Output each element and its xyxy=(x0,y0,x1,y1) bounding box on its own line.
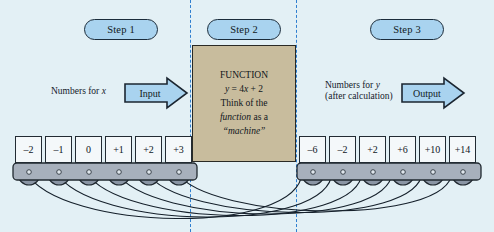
function-word-italic: function xyxy=(220,112,251,122)
output-caption: Numbers for y (after calculation) xyxy=(325,80,393,102)
output-tile: +6 xyxy=(389,136,416,163)
output-caption-line1: Numbers for y xyxy=(325,80,393,91)
output-tile: +14 xyxy=(449,136,476,163)
output-tile-value: +2 xyxy=(367,144,378,155)
function-note-line1: Think of the xyxy=(221,97,268,110)
output-conveyor-belt xyxy=(294,158,484,192)
output-caption-line2: (after calculation) xyxy=(325,91,393,102)
function-box: FUNCTION y = 4x + 2 Think of the functio… xyxy=(192,45,296,162)
step-3-label: Step 3 xyxy=(393,24,421,35)
input-tile: +3 xyxy=(165,136,192,163)
input-tile-value: 0 xyxy=(86,144,91,155)
input-tile-value: +1 xyxy=(113,144,124,155)
step-2-badge: Step 2 xyxy=(207,19,281,40)
function-note-line2: function as a xyxy=(220,111,268,124)
output-tile-value: –6 xyxy=(308,144,318,155)
input-tile: –2 xyxy=(15,136,42,163)
step-2-label: Step 2 xyxy=(230,24,258,35)
input-tile-value: –1 xyxy=(54,144,64,155)
output-tile-value: +10 xyxy=(425,144,441,155)
step-1-badge: Step 1 xyxy=(84,19,158,40)
input-caption-text: Numbers for x xyxy=(51,86,106,96)
function-title: FUNCTION xyxy=(220,69,268,82)
output-tile: +10 xyxy=(419,136,446,163)
output-tile-value: +6 xyxy=(397,144,408,155)
input-tile: 0 xyxy=(75,136,102,163)
output-arrow: Output xyxy=(400,76,466,110)
function-machine-word: “machine” xyxy=(223,125,266,138)
output-tile: +2 xyxy=(359,136,386,163)
output-tile: –6 xyxy=(299,136,326,163)
input-conveyor-belt xyxy=(10,158,200,192)
function-machine-diagram: Step 1 Step 2 Step 3 Numbers for x Input… xyxy=(0,0,494,232)
step2-left-divider xyxy=(190,0,191,232)
input-tile-value: –2 xyxy=(24,144,34,155)
step-1-label: Step 1 xyxy=(107,24,135,35)
function-equation: y = 4x + 2 xyxy=(225,83,263,96)
step2-right-divider xyxy=(296,0,297,232)
input-caption: Numbers for x xyxy=(51,86,106,97)
input-tile-value: +2 xyxy=(143,144,154,155)
input-tile-value: +3 xyxy=(173,144,184,155)
input-tile: +2 xyxy=(135,136,162,163)
output-tile: –2 xyxy=(329,136,356,163)
input-arrow: Input xyxy=(123,76,189,110)
output-tile-value: –2 xyxy=(338,144,348,155)
output-tile-value: +14 xyxy=(455,144,471,155)
function-note-rest: as a xyxy=(251,112,268,122)
input-tile: –1 xyxy=(45,136,72,163)
step-3-badge: Step 3 xyxy=(370,19,444,40)
input-tile: +1 xyxy=(105,136,132,163)
